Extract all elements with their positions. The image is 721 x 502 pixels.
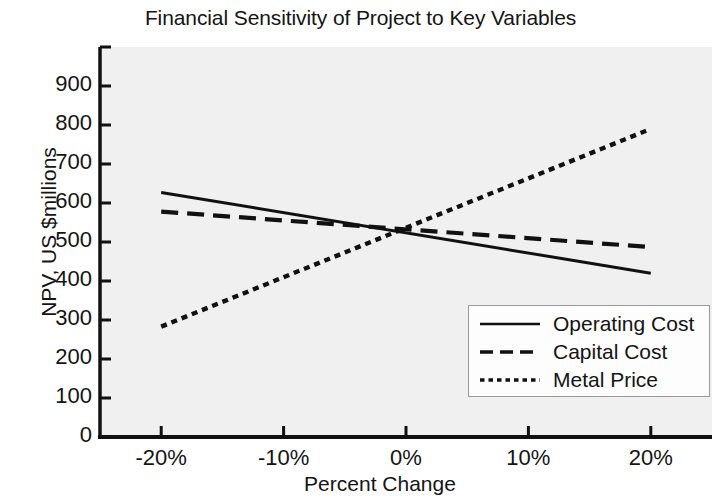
x-axis-tick-label: -20% <box>106 447 216 469</box>
sensitivity-chart: Financial Sensitivity of Project to Key … <box>0 0 721 502</box>
x-axis-tick-label: -10% <box>229 447 339 469</box>
legend-label-operating-cost: Operating Cost <box>553 312 694 336</box>
legend-swatch-solid-line <box>479 314 541 334</box>
legend-item-capital-cost: Capital Cost <box>479 338 667 366</box>
x-axis-tick-labels: -20%-10%0%10%20% <box>0 0 721 502</box>
chart-legend: Operating Cost Capital Cost Metal Price <box>468 305 710 397</box>
legend-swatch-dashed-line <box>479 342 541 362</box>
x-axis-tick-label: 0% <box>351 447 461 469</box>
legend-label-capital-cost: Capital Cost <box>553 340 667 364</box>
x-axis-tick-label: 20% <box>596 447 706 469</box>
legend-item-operating-cost: Operating Cost <box>479 310 694 338</box>
legend-swatch-dotted-line <box>479 370 541 390</box>
x-axis-tick-label: 10% <box>473 447 583 469</box>
legend-item-metal-price: Metal Price <box>479 366 658 394</box>
legend-label-metal-price: Metal Price <box>553 368 658 392</box>
